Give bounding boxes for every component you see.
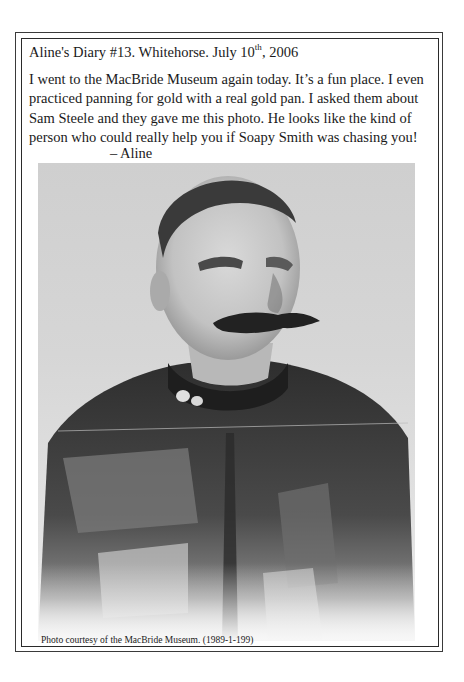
signature: – Aline xyxy=(110,144,152,162)
diary-entry-line: Sam Steele and they gave me this photo. … xyxy=(29,109,434,128)
diary-title-year: , 2006 xyxy=(262,44,298,60)
diary-entry-text: I went to the MacBride Museum again toda… xyxy=(29,70,434,147)
date-ordinal-superscript: th xyxy=(255,42,262,52)
portrait-illustration xyxy=(38,163,415,641)
diary-entry-line: person who could really help you if Soap… xyxy=(29,128,434,147)
diary-title: Aline's Diary #13. Whitehorse. July 10th… xyxy=(29,43,298,61)
diary-entry-line: practiced panning for gold with a real g… xyxy=(29,89,434,108)
diary-entry-line: I went to the MacBride Museum again toda… xyxy=(29,70,434,89)
photo-caption: Photo courtesy of the MacBride Museum. (… xyxy=(41,635,253,646)
diary-title-main: Aline's Diary #13. Whitehorse. July 10 xyxy=(29,44,255,60)
portrait-photo xyxy=(38,163,415,641)
